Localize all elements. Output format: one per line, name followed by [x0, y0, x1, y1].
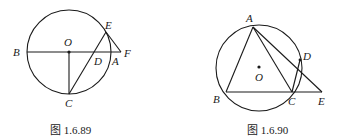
- figure-1-6-90: A D O B C E 图 1.6.90: [213, 12, 325, 136]
- label-b: B: [13, 46, 20, 58]
- label-a: A: [111, 55, 119, 67]
- label-f: F: [123, 47, 131, 59]
- label-o: O: [255, 71, 263, 83]
- label-o: O: [64, 36, 72, 48]
- label-d: D: [93, 55, 102, 67]
- point-d: [299, 59, 302, 62]
- figure-1-6-89: B O E F D A C 图 1.6.89: [13, 10, 131, 136]
- segment-ef: [106, 32, 121, 52]
- label-a: A: [245, 12, 253, 24]
- segment-ae: [253, 27, 322, 92]
- label-c: C: [65, 97, 73, 109]
- label-e: E: [317, 95, 325, 107]
- caption-figure-2: 图 1.6.90: [247, 124, 289, 136]
- center-point-o: [257, 65, 260, 68]
- label-e: E: [104, 19, 112, 31]
- label-b: B: [213, 93, 220, 105]
- center-point-o: [67, 50, 70, 53]
- diagram-canvas: B O E F D A C 图 1.6.89 A D O B C E 图 1.6…: [0, 0, 342, 139]
- label-c: C: [288, 95, 296, 107]
- label-d: D: [302, 50, 311, 62]
- caption-figure-1: 图 1.6.89: [50, 124, 92, 136]
